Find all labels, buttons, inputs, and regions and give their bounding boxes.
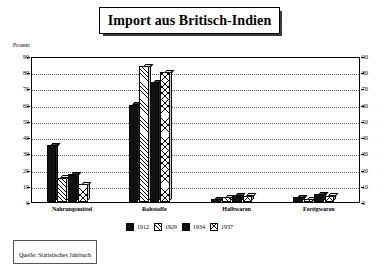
page-title: Import aus Britisch-Indien <box>108 13 272 29</box>
y-tick-right-20: 20 <box>362 168 378 174</box>
y-tickmark-right-10 <box>361 187 364 188</box>
legend-swatch-1912 <box>126 223 134 231</box>
bar <box>47 145 57 202</box>
bar-group <box>211 58 252 202</box>
y-tickmark-left-20 <box>27 171 30 172</box>
bar-group <box>129 58 170 202</box>
bar-group <box>47 58 88 202</box>
bar-side-face <box>251 194 254 201</box>
legend-label: 1937 <box>221 224 233 230</box>
y-tickmark-left-90 <box>27 57 30 58</box>
bar <box>243 196 253 202</box>
y-tickmark-right-60 <box>361 106 364 107</box>
legend-label: 1912 <box>137 224 149 230</box>
bar <box>57 178 67 202</box>
bar-side-face <box>169 71 172 201</box>
y-tick-right-90: 90 <box>362 54 378 60</box>
y-tick-right-50: 50 <box>362 119 378 125</box>
y-axis-right-ticks: 0102030405060708090 <box>362 57 380 203</box>
bar <box>129 105 139 202</box>
chart-legend: 1912192919341937 <box>126 221 233 232</box>
legend-item[interactable]: 1937 <box>210 223 233 231</box>
bar <box>232 196 242 202</box>
bar <box>160 72 170 202</box>
y-tickmark-right-70 <box>361 89 364 90</box>
bar-group <box>293 58 334 202</box>
bar <box>314 194 324 202</box>
y-tickmark-left-40 <box>27 138 30 139</box>
y-tickmark-right-0 <box>361 203 364 204</box>
bar <box>325 196 335 202</box>
legend-label: 1934 <box>193 224 205 230</box>
legend-swatch-1929 <box>154 223 162 231</box>
legend-item[interactable]: 1912 <box>126 223 149 231</box>
bar <box>150 82 160 202</box>
category-label: Fertigwaren <box>278 206 360 212</box>
bar <box>222 197 232 202</box>
y-tickmark-right-20 <box>361 171 364 172</box>
bar <box>304 199 314 202</box>
y-axis-left-ticks: 0102030405060708090 <box>12 57 29 203</box>
y-tick-right-40: 40 <box>362 135 378 141</box>
chart-title-box: Import aus Britisch-Indien <box>99 7 280 34</box>
legend-item[interactable]: 1934 <box>182 223 205 231</box>
y-tickmark-left-80 <box>27 73 30 74</box>
y-tickmark-right-80 <box>361 73 364 74</box>
legend-label: 1929 <box>165 224 177 230</box>
y-tickmark-left-70 <box>27 89 30 90</box>
y-tick-right-10: 10 <box>362 184 378 190</box>
y-tick-right-30: 30 <box>362 151 378 157</box>
y-tick-right-80: 80 <box>362 70 378 76</box>
y-tickmark-left-30 <box>27 154 30 155</box>
legend-swatch-1934 <box>182 223 190 231</box>
y-tick-right-70: 70 <box>362 86 378 92</box>
bar <box>68 174 78 202</box>
bar <box>293 197 303 202</box>
bar-side-face <box>87 183 90 201</box>
legend-swatch-1937 <box>210 223 218 231</box>
source-note: Quelle: Statistisches Jahrbuch <box>19 252 91 258</box>
bar <box>78 184 88 202</box>
y-tickmark-right-40 <box>361 138 364 139</box>
y-tick-right-60: 60 <box>362 103 378 109</box>
y-tickmark-left-0 <box>27 203 30 204</box>
legend-item[interactable]: 1929 <box>154 223 177 231</box>
bar <box>139 66 149 202</box>
bar <box>211 199 221 202</box>
source-box: Quelle: Statistisches Jahrbuch <box>13 240 97 264</box>
y-tick-right-0: 0 <box>362 200 378 206</box>
y-tickmark-left-60 <box>27 106 30 107</box>
y-tickmark-left-50 <box>27 122 30 123</box>
y-axis-unit-label: Prozent <box>13 42 30 48</box>
bar-side-face <box>333 194 336 201</box>
category-label: Halbwaren <box>196 206 278 212</box>
category-label: Nahrungsmittel <box>31 206 113 212</box>
y-tickmark-right-30 <box>361 154 364 155</box>
y-tickmark-right-90 <box>361 57 364 58</box>
chart-page: Import aus Britisch-Indien Prozent 01020… <box>0 0 384 264</box>
category-label: Rohstoffe <box>113 206 195 212</box>
y-tickmark-left-10 <box>27 187 30 188</box>
plot-area <box>31 57 360 203</box>
y-tickmark-right-50 <box>361 122 364 123</box>
